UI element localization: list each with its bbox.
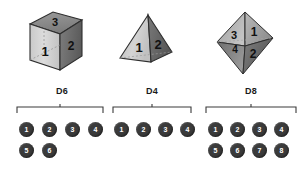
outcome-pip: 4: [274, 122, 289, 137]
outcome-pip: 6: [230, 143, 245, 158]
outcome-pip: 4: [88, 122, 103, 137]
outcome-pip: 4: [180, 122, 195, 137]
group-label-d4: D4: [132, 86, 172, 96]
cube-face-number-front: 1: [41, 44, 48, 59]
outcome-pip: 8: [274, 143, 289, 158]
outcome-row: 1 2 3 4: [208, 122, 289, 137]
outcome-pip: 7: [252, 143, 267, 158]
outcome-pip: 3: [65, 122, 80, 137]
outcome-set-d6: 1 2 3 4 5 6: [19, 122, 103, 158]
outcome-pip: 5: [19, 143, 34, 158]
outcome-pip: 2: [42, 122, 57, 137]
bracket-d8: [205, 104, 297, 114]
die-octahedron-d8: 3 1 4 2: [209, 8, 281, 80]
octahedron-face-number-lower-right: 2: [250, 47, 257, 61]
outcome-row: 1 2 3 4: [114, 122, 195, 137]
outcome-row: 1 2 3 4: [19, 122, 103, 137]
bracket-d6: [16, 104, 104, 114]
outcome-pip: 1: [208, 122, 223, 137]
outcome-pip: 3: [158, 122, 173, 137]
outcome-set-d8: 1 2 3 4 5 6 7 8: [208, 122, 289, 158]
octahedron-face-number-lower-left: 4: [232, 44, 238, 55]
die-tetrahedron-d4: 1 2: [116, 12, 178, 74]
outcome-pip: 6: [42, 143, 57, 158]
group-label-d8: D8: [231, 86, 271, 96]
tetrahedron-face-number-left: 1: [135, 40, 142, 55]
cube-face-number-right: 2: [68, 39, 75, 53]
outcome-pip: 2: [136, 122, 151, 137]
dice-illustrations-row: 3 1 2: [0, 0, 304, 86]
outcome-set-d4: 1 2 3 4: [114, 122, 195, 137]
outcome-pip: 2: [230, 122, 245, 137]
outcome-pip: 1: [19, 122, 34, 137]
group-label-d6: D6: [42, 86, 82, 96]
cube-face-number-top: 3: [52, 16, 58, 28]
outcome-row: 5 6: [19, 143, 103, 158]
outcome-row: 5 6 7 8: [208, 143, 289, 158]
tetrahedron-face-number-right: 2: [154, 37, 161, 52]
outcome-pip: 3: [252, 122, 267, 137]
dice-outcomes-figure: 3 1 2: [0, 0, 304, 174]
outcome-pip: 5: [208, 143, 223, 158]
bracket-d4: [112, 104, 192, 114]
octahedron-face-number-upper-left: 3: [231, 29, 237, 41]
octahedron-face-number-upper-right: 1: [251, 25, 258, 39]
outcome-pip: 1: [114, 122, 129, 137]
die-cube-d6: 3 1 2: [26, 10, 88, 76]
